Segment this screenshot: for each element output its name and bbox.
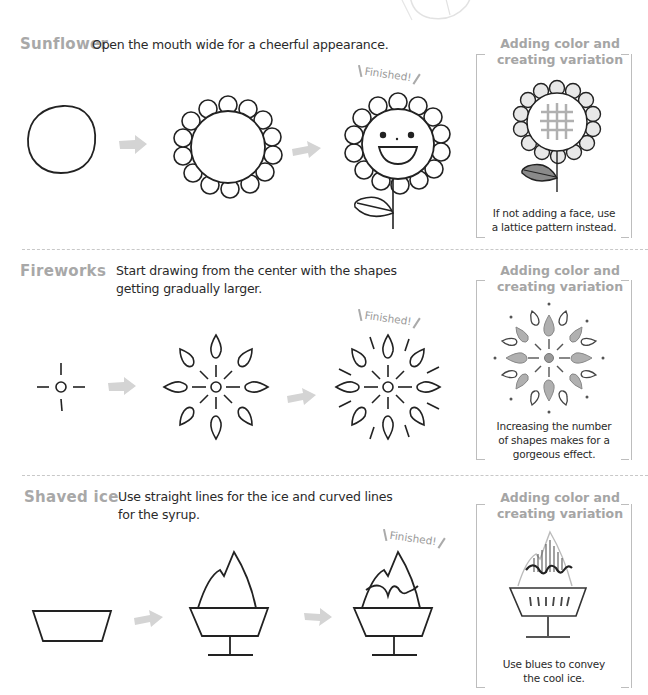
- arrow-right-icon: [285, 385, 321, 409]
- arrow-right-icon: [117, 133, 153, 157]
- fireworks-color-drawing: [494, 303, 604, 413]
- section-title: Shaved ice: [24, 488, 119, 506]
- section-description: Start drawing from the center with the s…: [116, 262, 397, 298]
- step-drops-ring-drawing: [162, 331, 272, 441]
- step-cup-drawing: [30, 608, 120, 648]
- step-ice-mound-drawing: [188, 548, 278, 663]
- sunflower-lattice-drawing: [512, 80, 612, 200]
- arrow-right-icon: [290, 138, 326, 162]
- arrow-right-icon: [132, 607, 168, 631]
- section-description: Open the mouth wide for a cheerful appea…: [92, 36, 389, 54]
- arrow-right-icon: [106, 374, 142, 398]
- shaved-ice-drawing: [352, 548, 442, 663]
- section-title: Fireworks: [20, 262, 106, 280]
- finished-label: Finished!: [354, 307, 421, 329]
- section-divider: [22, 475, 648, 476]
- variation-caption: Use blues to convey the cool ice.: [478, 657, 630, 685]
- finished-label: Finished!: [379, 527, 446, 549]
- variation-caption: Increasing the number of shapes makes fo…: [478, 419, 630, 461]
- step-petals-drawing: [173, 95, 283, 205]
- section-description: Use straight lines for the ice and curve…: [118, 488, 393, 524]
- variation-caption: If not adding a face, use a lattice patt…: [478, 206, 630, 234]
- section-divider: [22, 249, 648, 250]
- step-circle-drawing: [25, 103, 105, 183]
- arrow-right-icon: [302, 605, 338, 629]
- sunflower-drawing: [343, 92, 453, 242]
- finished-label: Finished!: [354, 63, 421, 85]
- step-center-cross-drawing: [33, 357, 93, 417]
- fireworks-drawing: [335, 331, 445, 441]
- decorative-circle-icon: [0, 0, 648, 40]
- shaved-ice-color-drawing: [508, 528, 598, 648]
